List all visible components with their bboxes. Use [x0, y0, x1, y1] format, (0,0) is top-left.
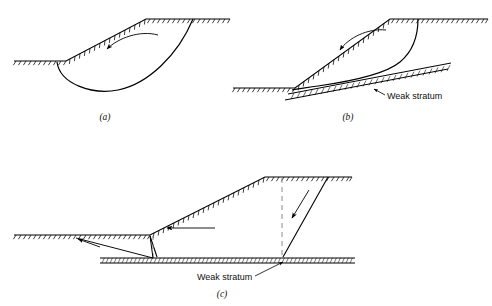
panel-c-ground-surface	[13, 177, 352, 239]
panel-c-weak-stratum	[100, 258, 355, 263]
panel-b-caption: (b)	[342, 112, 353, 123]
panel-c-active-wedge-plane	[283, 177, 328, 257]
panel-b-weak-stratum-leader	[374, 89, 385, 95]
panel-c-weak-stratum-label: Weak stratum	[197, 272, 252, 282]
panel-c-weak-stratum-leader	[255, 262, 283, 276]
panel-a-hatch-left	[13, 61, 66, 65]
panel-a-hatch-slope	[69, 20, 145, 64]
slope-failure-figure: (a)	[0, 0, 492, 306]
panel-c-hatch-slope	[153, 178, 264, 239]
panel-b-movement-arrow	[340, 30, 386, 50]
panel-c: Weak stratum (c)	[13, 177, 355, 300]
panel-b-weak-stratum-label: Weak stratum	[387, 91, 442, 101]
panel-b: Weak stratum (b)	[232, 19, 488, 123]
panel-b-hatch-crest	[391, 19, 488, 23]
panel-c-hatch-crest	[266, 177, 352, 181]
panel-c-active-arrow	[292, 190, 309, 218]
panel-a: (a)	[13, 19, 230, 123]
panel-a-caption: (a)	[99, 112, 110, 123]
panel-b-hatch-left	[232, 88, 295, 92]
panel-b-ground-surface	[232, 19, 488, 92]
panel-a-ground-surface	[13, 19, 230, 65]
panel-a-hatch-crest	[147, 19, 230, 23]
panel-c-caption: (c)	[217, 289, 228, 300]
panel-c-passive-slip-surface	[76, 238, 153, 258]
figure-canvas: (a)	[0, 0, 492, 306]
panel-c-hatch-left	[13, 235, 150, 239]
